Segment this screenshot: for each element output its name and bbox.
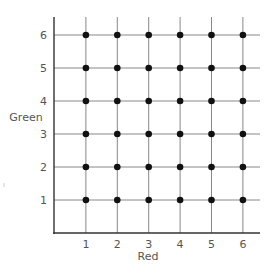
data-point — [240, 197, 247, 204]
data-point — [83, 164, 90, 171]
data-point — [83, 32, 90, 39]
data-point — [177, 98, 184, 105]
x-axis-title: Red — [138, 250, 159, 263]
data-points — [83, 32, 247, 204]
x-tick-label: 1 — [82, 238, 89, 251]
data-point — [208, 32, 215, 39]
x-tick-label: 5 — [208, 238, 215, 251]
data-point — [177, 164, 184, 171]
data-point — [145, 164, 152, 171]
data-point — [240, 32, 247, 39]
y-tick-label: 5 — [40, 62, 47, 75]
y-tick-label: 6 — [40, 29, 47, 42]
data-point — [240, 131, 247, 138]
data-point — [177, 65, 184, 72]
y-tick-label: 3 — [40, 128, 47, 141]
data-point — [83, 98, 90, 105]
data-point — [208, 131, 215, 138]
data-point — [177, 131, 184, 138]
red-green-lattice-chart: 123456 123456 Red Green — [0, 0, 270, 273]
data-point — [240, 164, 247, 171]
y-tick-label: 1 — [40, 194, 47, 207]
data-point — [83, 65, 90, 72]
x-tick-label: 4 — [177, 238, 184, 251]
data-point — [177, 197, 184, 204]
y-axis-title: Green — [9, 111, 42, 124]
data-point — [114, 32, 121, 39]
data-point — [145, 32, 152, 39]
data-point — [145, 131, 152, 138]
data-point — [114, 65, 121, 72]
data-point — [240, 98, 247, 105]
x-tick-labels: 123456 — [82, 238, 246, 251]
x-tick-label: 6 — [239, 238, 246, 251]
data-point — [114, 98, 121, 105]
y-tick-label: 2 — [40, 161, 47, 174]
data-point — [145, 197, 152, 204]
y-tick-label: 4 — [40, 95, 47, 108]
data-point — [145, 65, 152, 72]
data-point — [83, 131, 90, 138]
data-point — [145, 98, 152, 105]
data-point — [208, 164, 215, 171]
data-point — [240, 65, 247, 72]
data-point — [114, 197, 121, 204]
data-point — [114, 164, 121, 171]
data-point — [177, 32, 184, 39]
data-point — [208, 197, 215, 204]
data-point — [114, 131, 121, 138]
data-point — [208, 98, 215, 105]
data-point — [208, 65, 215, 72]
data-point — [83, 197, 90, 204]
x-tick-label: 2 — [114, 238, 121, 251]
